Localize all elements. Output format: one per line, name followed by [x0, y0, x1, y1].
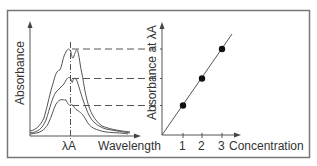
- left-y-axis-label: Absorbance: [13, 41, 27, 105]
- left-x-axis-label: Wavelength: [98, 139, 161, 153]
- right-panel: Absorbance at λA 1 2 3 Concentration: [145, 22, 304, 153]
- x-tick-label-2: 2: [198, 139, 205, 153]
- right-x-axis-label: Concentration: [229, 139, 304, 153]
- left-x-axis-arrow-icon: [134, 134, 141, 139]
- lambda-a-label: λA: [62, 139, 76, 153]
- right-y-axis-label: Absorbance at λA: [145, 25, 159, 120]
- data-point-3: [219, 46, 225, 52]
- left-panel: Absorbance λA Wavelength: [13, 21, 162, 153]
- right-x-axis-arrow-icon: [234, 133, 241, 138]
- data-point-1: [180, 102, 186, 108]
- left-y-axis-arrow-icon: [28, 21, 33, 28]
- right-y-axis-arrow-icon: [160, 22, 165, 29]
- spectrum-curve-mid: [30, 77, 130, 133]
- data-point-2: [199, 75, 205, 81]
- x-tick-label-1: 1: [179, 139, 186, 153]
- absorbance-figure: Absorbance λA Wavelength Absorbance at λ…: [0, 0, 317, 166]
- x-tick-label-3: 3: [218, 139, 225, 153]
